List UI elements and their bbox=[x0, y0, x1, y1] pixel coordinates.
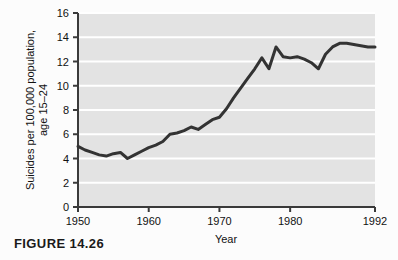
y-tick-label: 14 bbox=[57, 31, 69, 43]
y-tick-label: 16 bbox=[57, 7, 69, 19]
y-tick-label: 12 bbox=[57, 56, 69, 68]
y-tick-label: 2 bbox=[63, 177, 69, 189]
x-tick-label: 1992 bbox=[363, 215, 387, 227]
figure-container: 0246810121416 19501960197019801992 Year … bbox=[0, 0, 398, 260]
y-axis-tick-labels: 0246810121416 bbox=[57, 7, 69, 213]
y-tick-label: 10 bbox=[57, 80, 69, 92]
x-tick-label: 1970 bbox=[207, 215, 231, 227]
suicide-rate-line-chart: 0246810121416 19501960197019801992 Year … bbox=[0, 0, 398, 260]
figure-caption: FIGURE 14.26 bbox=[14, 236, 104, 251]
x-tick-label: 1980 bbox=[278, 215, 302, 227]
x-tick-label: 1960 bbox=[136, 215, 160, 227]
y-tick-label: 0 bbox=[63, 201, 69, 213]
x-tick-label: 1950 bbox=[66, 215, 90, 227]
y-axis-title-line1: Suicides per 100,000 population, bbox=[24, 30, 36, 190]
x-axis-tick-labels: 19501960197019801992 bbox=[66, 215, 387, 227]
y-tick-label: 6 bbox=[63, 128, 69, 140]
y-tick-label: 8 bbox=[63, 104, 69, 116]
x-axis-title: Year bbox=[215, 233, 238, 245]
y-tick-label: 4 bbox=[63, 153, 69, 165]
y-axis-title-line2: age 15–24 bbox=[37, 84, 49, 136]
